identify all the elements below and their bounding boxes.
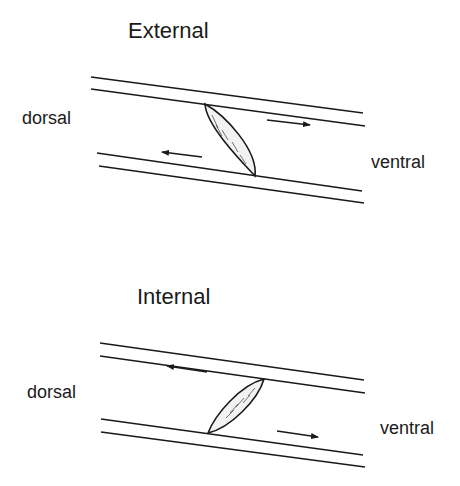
muscle-fiber-external <box>205 104 255 176</box>
arrow-right-icon <box>267 120 310 125</box>
diagram-canvas <box>0 0 460 486</box>
internal-intercostal-diagram <box>100 343 365 467</box>
arrow-left-icon <box>162 152 202 157</box>
external-intercostal-diagram <box>91 77 365 203</box>
arrow-left-icon <box>167 366 207 372</box>
arrow-right-icon <box>277 431 318 437</box>
